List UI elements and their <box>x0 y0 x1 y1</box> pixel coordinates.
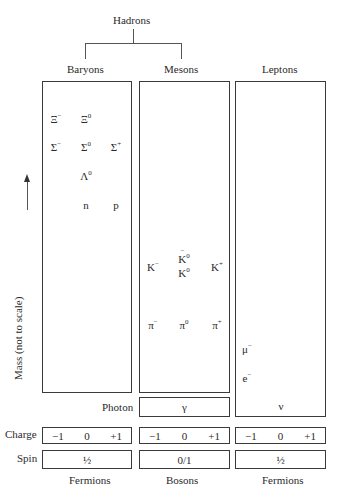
lepton-charge-box: −10+1 <box>235 427 326 444</box>
meson-charge-box: −10+1 <box>139 427 230 444</box>
lepton-statistics: Fermions <box>262 474 304 486</box>
particle-neutron: n <box>83 199 89 211</box>
photon-box: γ <box>139 397 230 417</box>
particle-lambda-zero: Λ0 <box>80 169 91 182</box>
particle-neutrino: ν <box>279 400 284 412</box>
tree-left-drop <box>85 43 86 59</box>
particle-proton: p <box>113 199 119 211</box>
particle-k-zero: K0 <box>178 266 189 279</box>
particle-pi-plus: π+ <box>212 318 222 331</box>
up-arrow-icon <box>24 174 30 182</box>
tree-crossbar <box>85 43 182 44</box>
particle-sigma-plus: Σ+ <box>111 140 121 153</box>
baryon-spin-box: ½ <box>42 450 132 469</box>
particle-pi-zero: π0 <box>179 318 188 331</box>
meson-statistics: Bosons <box>166 474 198 486</box>
mass-arrow-shaft <box>27 180 28 210</box>
baryons-box: Ξ− Ξ0 Σ− Σ0 Σ+ Λ0 n p <box>42 81 132 393</box>
hadrons-title: Hadrons <box>113 14 150 26</box>
tree-right-drop <box>181 43 182 59</box>
particle-sigma-zero: Σ0 <box>81 140 91 153</box>
particle-pi-minus: π− <box>148 318 158 331</box>
particle-k-plus: K+ <box>211 260 223 273</box>
particle-sigma-minus: Σ− <box>51 140 61 153</box>
tree-stem <box>133 29 134 43</box>
spin-label: Spin <box>17 452 37 464</box>
photon-symbol: γ <box>140 398 229 416</box>
particle-electron: e− <box>243 371 252 384</box>
baryon-statistics: Fermions <box>69 474 111 486</box>
photon-label: Photon <box>102 401 133 413</box>
lepton-spin-box: ½ <box>235 450 326 469</box>
particle-xi-zero: Ξ0 <box>81 112 92 125</box>
leptons-header: Leptons <box>262 63 297 75</box>
charge-label: Charge <box>5 428 37 440</box>
particle-muon: μ− <box>242 342 252 355</box>
mass-axis-label: Mass (not to scale) <box>10 200 26 380</box>
leptons-box: μ− e− ν <box>235 81 326 417</box>
particle-k-minus: K− <box>147 260 159 273</box>
baryon-charge-box: −10+1 <box>42 427 132 444</box>
mesons-box: K− K‾0 K0 K+ π− π0 π+ <box>139 81 230 393</box>
particle-k-zero-bar: K‾0 <box>178 252 189 265</box>
mesons-header: Mesons <box>164 63 198 75</box>
baryons-header: Baryons <box>67 63 104 75</box>
particle-xi-minus: Ξ− <box>50 112 61 125</box>
meson-spin-box: 0/1 <box>139 450 230 469</box>
